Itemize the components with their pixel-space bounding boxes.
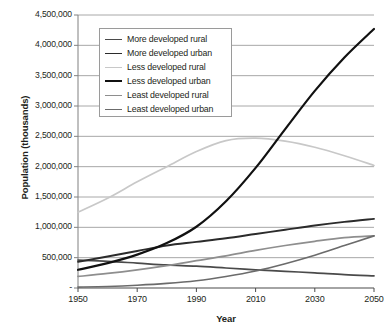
legend-swatch-line-icon <box>105 95 122 96</box>
series-line <box>78 260 374 276</box>
chart-legend: More developed ruralMore developed urban… <box>99 28 232 117</box>
series-line <box>78 236 374 277</box>
legend-item[interactable]: Less developed urban <box>100 74 231 88</box>
legend-item[interactable]: More developed rural <box>100 32 231 46</box>
legend-item[interactable]: More developed urban <box>100 46 231 60</box>
legend-item-label: More developed urban <box>127 48 212 58</box>
legend-item[interactable]: Least developed urban <box>100 102 231 116</box>
legend-swatch-line-icon <box>105 53 122 54</box>
legend-swatch-line-icon <box>105 80 122 82</box>
legend-swatch-line-icon <box>105 67 122 68</box>
legend-item-label: Less developed urban <box>127 76 211 86</box>
legend-item[interactable]: Less developed rural <box>100 60 231 74</box>
legend-item[interactable]: Least developed rural <box>100 88 231 102</box>
legend-swatch-line-icon <box>105 39 122 40</box>
legend-item-label: Less developed rural <box>127 62 206 72</box>
legend-item-label: Least developed urban <box>127 104 213 114</box>
legend-swatch-line-icon <box>105 109 122 110</box>
legend-item-label: More developed rural <box>127 34 207 44</box>
legend-item-label: Least developed rural <box>127 90 208 100</box>
